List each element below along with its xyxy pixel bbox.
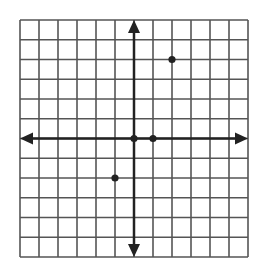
arrow-down-icon [128, 244, 140, 257]
data-point [168, 56, 175, 63]
arrow-right-icon [235, 133, 248, 145]
data-point [111, 174, 118, 181]
arrow-up-icon [128, 20, 140, 33]
data-point [149, 135, 156, 142]
coordinate-plane [0, 0, 261, 271]
arrow-left-icon [20, 133, 33, 145]
data-point [130, 135, 137, 142]
